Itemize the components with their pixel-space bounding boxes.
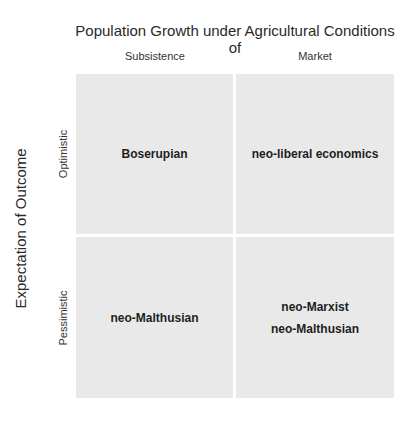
cell-label-line1: neo-Marxist [281,296,348,318]
column-header-subsistence: Subsistence [76,50,234,62]
cell-label: neo-liberal economics [252,143,379,165]
cell-label: Boserupian [121,143,187,165]
row-header-optimistic: Optimistic [57,114,69,194]
cell-label: neo-Malthusian [110,307,198,329]
cell-optimistic-subsistence: Boserupian [76,74,233,234]
cell-pessimistic-market: neo-Marxist neo-Malthusian [236,237,394,398]
cell-optimistic-market: neo-liberal economics [236,74,394,234]
y-axis-label: Expectation of Outcome [12,159,29,309]
cell-label-line2: neo-Malthusian [271,318,359,340]
cell-pessimistic-subsistence: neo-Malthusian [76,237,233,398]
row-header-pessimistic: Pessimistic [57,278,69,358]
column-header-market: Market [236,50,394,62]
